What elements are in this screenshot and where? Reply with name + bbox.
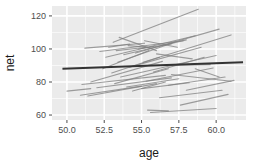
y-tick-label: 60 — [36, 110, 46, 120]
net-vs-age-spaghetti-plot: 6080100120 50.052.555.057.560.0 age net — [0, 0, 255, 162]
chart-container: 6080100120 50.052.555.057.560.0 age net — [0, 0, 255, 162]
x-tick-label: 50.0 — [58, 125, 76, 135]
x-tick-label: 57.5 — [170, 125, 188, 135]
x-axis-title: age — [139, 146, 159, 160]
x-tick-label: 55.0 — [133, 125, 151, 135]
y-axis-title: net — [3, 54, 17, 71]
y-tick-label: 120 — [31, 11, 46, 21]
x-tick-label: 60.0 — [207, 125, 225, 135]
y-tick-label: 80 — [36, 77, 46, 87]
x-tick-label: 52.5 — [95, 125, 113, 135]
y-tick-label: 100 — [31, 44, 46, 54]
